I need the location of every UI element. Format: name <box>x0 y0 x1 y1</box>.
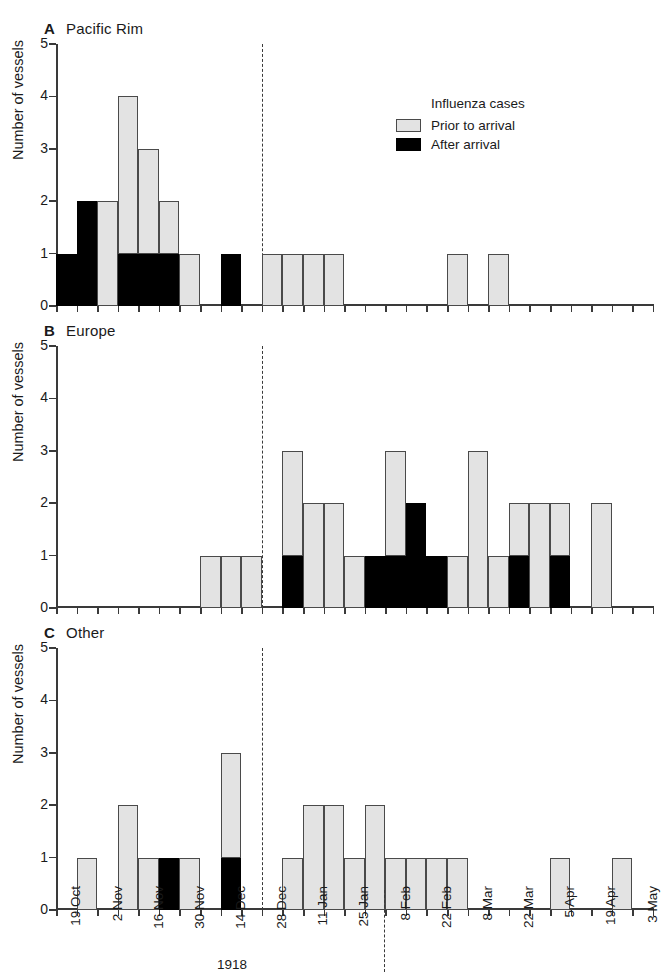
bar-segment-after-arrival <box>385 556 406 608</box>
panel-a-x-tick <box>303 306 305 312</box>
legend-swatch-after-icon <box>396 138 421 151</box>
bar-segment-prior-to-arrival <box>447 556 468 608</box>
bar <box>282 254 303 306</box>
bar <box>509 503 530 608</box>
x-tick-label: 5 Apr <box>562 886 577 956</box>
panel-c-y-tick-label: 4 <box>26 691 48 707</box>
panel-a-x-tick <box>509 306 511 312</box>
panel-a-x-tick <box>385 306 387 312</box>
bar-segment-after-arrival <box>365 556 386 608</box>
panel-b-y-tick <box>49 502 56 504</box>
bar <box>221 254 242 306</box>
bar-segment-prior-to-arrival <box>200 556 221 608</box>
panel-b-y-tick-label: 4 <box>26 389 48 405</box>
bar-segment-prior-to-arrival <box>138 149 159 254</box>
x-tick-label-text: 2 Nov <box>110 886 125 921</box>
x-tick-label-text: 8 Mar <box>480 886 495 921</box>
x-tick-label-text: 25 Jan <box>356 886 371 927</box>
x-tick-label-text: 22 Feb <box>439 886 454 928</box>
x-tick-label: 2 Nov <box>110 886 125 956</box>
panel-a-y-axis-label: Number of vessels <box>10 20 26 180</box>
year-label: 1918 <box>217 957 247 972</box>
panel-b-x-tick <box>653 608 655 614</box>
bar <box>324 254 345 306</box>
panel-a-x-tick <box>632 306 634 312</box>
x-tick-label: 22 Feb <box>439 886 454 956</box>
legend-title: Influenza cases <box>431 96 525 111</box>
bar <box>303 254 324 306</box>
panel-b-y-tick <box>49 398 56 400</box>
bar-segment-prior-to-arrival <box>241 556 262 608</box>
bar-segment-prior-to-arrival <box>179 254 200 306</box>
panel-c-y-axis-label: Number of vessels <box>10 624 26 784</box>
bar <box>118 96 139 306</box>
panel-b-x-tick <box>179 608 181 614</box>
legend: Influenza cases Prior to arrival After a… <box>396 96 525 154</box>
panel-c-y-tick <box>49 804 56 806</box>
bar <box>426 556 447 608</box>
bar <box>385 451 406 608</box>
panel-b-x-tick <box>591 608 593 614</box>
panel-b-x-tick <box>138 608 140 614</box>
bar-segment-after-arrival <box>221 254 242 306</box>
panel-a-x-tick <box>365 306 367 312</box>
x-tick-label: 25 Jan <box>356 886 371 956</box>
x-tick-label-text: 8 Feb <box>398 886 413 921</box>
bar <box>406 503 427 608</box>
x-tick-label-text: 28 Dec <box>274 886 289 929</box>
bar-segment-after-arrival <box>406 503 427 608</box>
panel-b-x-tick <box>344 608 346 614</box>
panel-a-y-tick-label: 1 <box>26 245 48 261</box>
bar <box>241 556 262 608</box>
panel-a-x-tick <box>56 306 58 312</box>
panel-b-x-tick <box>365 608 367 614</box>
panel-a-x-tick <box>612 306 614 312</box>
panel-b-y-tick <box>49 607 56 609</box>
bar-segment-prior-to-arrival <box>303 254 324 306</box>
panel-a-y-tick-label: 3 <box>26 140 48 156</box>
panel-a-x-tick <box>591 306 593 312</box>
panel-b-y-tick-label: 5 <box>26 337 48 353</box>
panel-b-x-tick <box>324 608 326 614</box>
panel-a-y-tick <box>49 253 56 255</box>
bar-segment-prior-to-arrival <box>118 96 139 253</box>
x-tick-label: 22 Mar <box>521 886 536 956</box>
panel-c-divider-line <box>262 648 263 910</box>
bar-segment-prior-to-arrival <box>324 254 345 306</box>
panel-b-divider-line <box>262 346 263 608</box>
panel-a-x-tick <box>179 306 181 312</box>
year-divider-dashed-line <box>384 890 385 972</box>
panel-a-y-tick <box>49 200 56 202</box>
panel-b-x-tick <box>571 608 573 614</box>
panel-a-x-tick <box>653 306 655 312</box>
x-tick-label: 19 Apr <box>603 886 618 956</box>
x-tick-label-text: 19 Oct <box>68 886 83 926</box>
panel-c-y-tick-label: 1 <box>26 849 48 865</box>
bar-segment-prior-to-arrival <box>488 556 509 608</box>
panel-b-plot-area: 012345 <box>56 346 656 608</box>
bar <box>488 254 509 306</box>
x-tick-label-text: 30 Nov <box>192 886 207 929</box>
bar-segment-after-arrival <box>77 201 98 306</box>
bar-segment-after-arrival <box>118 254 139 306</box>
panel-b-x-tick <box>426 608 428 614</box>
panel-a-x-tick <box>282 306 284 312</box>
bar <box>77 201 98 306</box>
panel-b-name: Europe <box>66 322 116 339</box>
bar <box>179 254 200 306</box>
bar-segment-prior-to-arrival <box>324 503 345 608</box>
bar <box>138 149 159 306</box>
panel-c-y-tick <box>49 752 56 754</box>
panel-a-y-tick <box>49 96 56 98</box>
panel-b-x-tick <box>282 608 284 614</box>
x-tick-label-text: 22 Mar <box>521 886 536 928</box>
panel-b-x-tick <box>303 608 305 614</box>
panel-c-y-tick <box>49 857 56 859</box>
panel-b-y-tick-label: 0 <box>26 599 48 615</box>
bar-segment-prior-to-arrival <box>488 254 509 306</box>
panel-c-title: COther <box>44 624 105 641</box>
panel-b-x-tick <box>385 608 387 614</box>
panel-a-plot-area: 012345 <box>56 44 656 306</box>
bar <box>365 556 386 608</box>
bar-segment-prior-to-arrival <box>385 451 406 556</box>
